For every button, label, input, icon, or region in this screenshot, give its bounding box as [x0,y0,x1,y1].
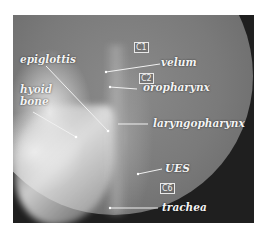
vertebra-c6-badge: C6 [160,183,175,194]
airway-shadow [105,45,127,215]
label-ues: UES [165,163,190,174]
label-bone: bone [20,96,49,107]
label-velum: velum [161,57,197,68]
label-epiglottis: epiglottis [20,54,76,65]
label-hyoid: hyoid [20,84,52,95]
label-laryngopharynx: laryngopharynx [153,118,245,129]
vertebra-c1-badge: C1 [134,42,149,53]
label-trachea: trachea [162,202,207,213]
vertebra-c2-badge: C2 [139,73,154,84]
